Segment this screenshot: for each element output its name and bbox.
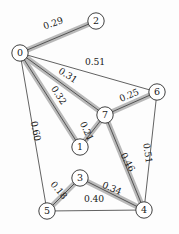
edge-layer: [20, 21, 157, 211]
edge-weight-6-4: 0.51: [142, 142, 154, 163]
node-label-2: 2: [93, 17, 99, 27]
node-label-7: 7: [102, 111, 108, 121]
edge-0-1[interactable]: [20, 53, 80, 147]
node-label-6: 6: [154, 88, 160, 98]
node-label-4: 4: [141, 206, 147, 216]
node-label-3: 3: [77, 174, 83, 184]
node-layer: [12, 13, 165, 219]
edge-5-4[interactable]: [47, 210, 144, 211]
node-label-5: 5: [44, 207, 50, 217]
graph-figure: 0.290.510.310.320.600.250.210.460.510.34…: [0, 0, 179, 234]
node-label-1: 1: [77, 143, 83, 153]
edge-weight-5-4: 0.40: [84, 194, 104, 203]
node-label-0: 0: [17, 49, 23, 59]
edge-weight-0-6: 0.51: [85, 57, 105, 66]
